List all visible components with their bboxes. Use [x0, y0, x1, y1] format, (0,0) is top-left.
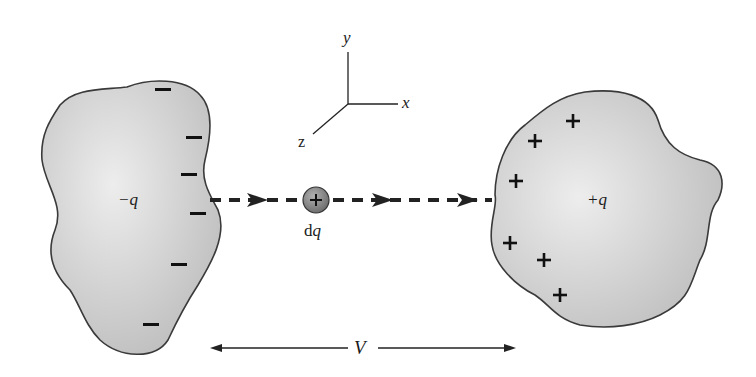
minus-icon [155, 88, 171, 91]
coordinate-axes [313, 52, 398, 134]
axis-label-x: x [402, 93, 410, 113]
minus-icon [190, 212, 206, 215]
minus-icon [171, 263, 187, 266]
dq-label-q: q [313, 221, 322, 240]
dq-label-d: d [304, 221, 313, 240]
axis-label-z: z [298, 133, 305, 151]
diagram-canvas [0, 0, 756, 377]
path-arrow-icon [457, 193, 478, 207]
minus-icon [186, 136, 202, 139]
negative-conductor [42, 81, 221, 354]
axis-label-y: y [343, 28, 351, 48]
charge-path [210, 193, 492, 207]
minus-icon [143, 323, 159, 326]
negative-charge-label: −q [118, 190, 138, 210]
positive-charge-label: +q [587, 190, 607, 210]
dq-label: dq [304, 221, 321, 241]
potential-label: V [354, 337, 366, 359]
minus-icon [181, 173, 197, 176]
